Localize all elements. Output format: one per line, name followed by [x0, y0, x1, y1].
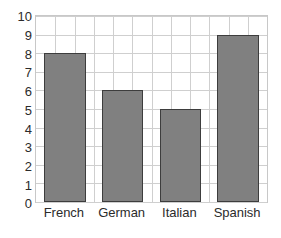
plot-area	[35, 15, 268, 203]
x-axis-category-labels: French German Italian Spanish	[35, 205, 268, 227]
bar-german[interactable]	[102, 90, 144, 202]
bar-spanish[interactable]	[217, 35, 259, 202]
y-tick-label-4: 4	[0, 123, 32, 136]
x-label-german: German	[93, 205, 151, 220]
y-tick-label-10: 10	[0, 10, 32, 23]
bar-french[interactable]	[44, 53, 86, 202]
y-tick-label-9: 9	[0, 29, 32, 42]
y-tick-label-0: 0	[0, 197, 32, 210]
y-tick-label-2: 2	[0, 160, 32, 173]
y-tick-label-7: 7	[0, 66, 32, 79]
gridline-horizontal-0	[36, 202, 267, 203]
bar-chart: 10 9 8 7 6 5 4 3 2 1 0 French German Ita…	[0, 0, 281, 238]
x-label-french: French	[35, 205, 93, 220]
y-tick-label-3: 3	[0, 141, 32, 154]
y-axis-tick-labels: 10 9 8 7 6 5 4 3 2 1 0	[0, 0, 32, 238]
y-tick-label-6: 6	[0, 85, 32, 98]
x-label-italian: Italian	[151, 205, 209, 220]
x-label-spanish: Spanish	[208, 205, 266, 220]
bars-layer	[36, 16, 267, 202]
y-tick-label-5: 5	[0, 104, 32, 117]
y-tick-label-8: 8	[0, 48, 32, 61]
y-tick-label-1: 1	[0, 179, 32, 192]
bar-italian[interactable]	[160, 109, 202, 202]
